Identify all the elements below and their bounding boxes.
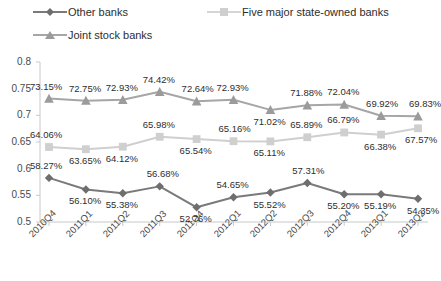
data-point-marker xyxy=(377,190,385,198)
x-axis-tick-label: 2011Q4 xyxy=(175,209,205,239)
y-axis-tick-label: 0.5 xyxy=(5,217,31,227)
data-point-label: 73.15% xyxy=(30,82,62,92)
data-point-marker xyxy=(303,101,313,110)
data-point-marker xyxy=(45,174,53,182)
data-point-label: 54.65% xyxy=(217,180,249,190)
x-axis-tick-label: 2011Q1 xyxy=(64,209,94,239)
series-line xyxy=(49,128,418,149)
data-point-label: 69.83% xyxy=(409,99,441,109)
data-point-label: 55.52% xyxy=(253,200,285,210)
data-point-label: 71.88% xyxy=(290,88,322,98)
x-axis-tick-label: 2013Q2 xyxy=(396,208,427,239)
data-point-label: 66.38% xyxy=(364,142,396,152)
chart-legend: Other banks Five major state-owned banks… xyxy=(0,0,439,50)
y-axis-tick-label: 0.7 xyxy=(5,110,31,120)
data-point-marker xyxy=(266,188,274,196)
data-point-marker xyxy=(119,143,127,151)
x-axis-tick-label: 2012Q2 xyxy=(248,208,279,239)
y-axis-tick-label: 0.65 xyxy=(5,137,31,147)
data-point-marker xyxy=(266,105,276,114)
data-point-marker xyxy=(376,111,386,120)
data-point-label: 65.11% xyxy=(253,148,285,158)
square-marker-icon xyxy=(207,6,241,18)
data-point-marker xyxy=(230,137,238,145)
data-point-label: 65.98% xyxy=(143,120,175,130)
data-point-marker xyxy=(44,94,54,103)
data-point-marker xyxy=(192,96,202,105)
data-point-label: 64.06% xyxy=(30,130,62,140)
data-point-marker xyxy=(82,185,90,193)
data-point-label: 55.20% xyxy=(327,201,359,211)
data-point-marker xyxy=(377,131,385,139)
data-point-marker xyxy=(119,189,127,197)
data-point-label: 63.65% xyxy=(69,156,101,166)
data-point-label: 74.42% xyxy=(143,75,175,85)
data-point-marker xyxy=(81,96,91,105)
data-point-label: 56.68% xyxy=(147,169,179,179)
data-point-label: 72.93% xyxy=(217,83,249,93)
x-axis-tick-label: 2012Q3 xyxy=(285,208,316,239)
data-point-label: 65.16% xyxy=(219,124,251,134)
data-point-label: 55.38% xyxy=(106,200,138,210)
data-point-label: 71.02% xyxy=(253,117,285,127)
data-point-label: 72.64% xyxy=(182,84,214,94)
data-point-label: 57.31% xyxy=(292,166,324,176)
data-point-marker xyxy=(82,145,90,153)
data-point-label: 66.79% xyxy=(327,115,359,125)
y-axis-tick-label: 0.55 xyxy=(5,190,31,200)
data-point-marker xyxy=(229,193,237,201)
y-axis-tick-label: 0.8 xyxy=(5,57,31,67)
triangle-marker-icon xyxy=(33,29,67,41)
legend-label-other-banks: Other banks xyxy=(68,6,128,18)
x-axis-tick-label: 2011Q2 xyxy=(101,209,131,239)
y-axis-tick-label: 0.6 xyxy=(5,164,31,174)
data-point-label: 72.93% xyxy=(106,83,138,93)
data-point-marker xyxy=(340,129,348,137)
data-point-marker xyxy=(339,100,349,109)
data-point-label: 58.27% xyxy=(30,161,62,171)
x-axis-tick-label: 2010Q4 xyxy=(27,208,58,239)
data-point-marker xyxy=(267,138,275,146)
data-point-label: 65.89% xyxy=(290,120,322,130)
legend-label-joint-stock-banks: Joint stock banks xyxy=(68,29,152,41)
data-point-marker xyxy=(303,179,311,187)
data-point-label: 52.76% xyxy=(180,214,212,224)
data-point-label: 64.12% xyxy=(106,154,138,164)
series-line xyxy=(49,92,418,116)
data-point-marker xyxy=(155,87,165,96)
data-point-marker xyxy=(192,203,200,211)
data-point-marker xyxy=(118,95,128,104)
data-point-label: 54.35% xyxy=(407,206,439,216)
data-point-label: 72.04% xyxy=(327,87,359,97)
data-point-label: 69.92% xyxy=(366,99,398,109)
data-point-marker xyxy=(156,133,164,141)
data-point-marker xyxy=(340,190,348,198)
x-axis-tick-label: 2012Q4 xyxy=(322,208,353,239)
data-point-label: 56.10% xyxy=(69,196,101,206)
data-point-label: 65.54% xyxy=(180,146,212,156)
data-point-label: 72.75% xyxy=(69,84,101,94)
data-point-label: 55.19% xyxy=(364,201,396,211)
series-line xyxy=(49,178,418,207)
x-axis-tick-label: 2012Q1 xyxy=(212,208,243,239)
legend-item-five-major-banks: Five major state-owned banks xyxy=(207,6,389,18)
x-axis-tick-label: 2011Q3 xyxy=(138,209,168,239)
data-point-marker xyxy=(193,135,201,143)
data-point-marker xyxy=(156,182,164,190)
legend-label-five-major-banks: Five major state-owned banks xyxy=(242,6,389,18)
data-point-marker xyxy=(229,95,239,104)
y-axis-tick-label: 0.75 xyxy=(5,84,31,94)
diamond-marker-icon xyxy=(33,6,67,18)
data-point-marker xyxy=(45,143,53,151)
legend-item-joint-stock-banks: Joint stock banks xyxy=(33,29,152,41)
legend-item-other-banks: Other banks xyxy=(33,6,128,18)
data-point-label: 67.57% xyxy=(405,135,437,145)
x-axis-tick-label: 2013Q1 xyxy=(359,208,390,239)
data-point-marker xyxy=(414,195,422,203)
data-point-marker xyxy=(414,124,422,132)
data-point-marker xyxy=(303,133,311,141)
data-point-marker xyxy=(413,111,423,120)
